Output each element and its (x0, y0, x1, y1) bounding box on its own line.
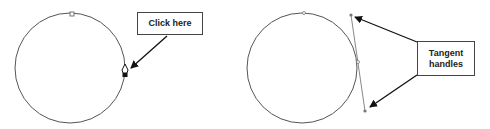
circle-path-left (15, 13, 125, 123)
callout-arrow-bottom-handle (370, 75, 417, 107)
anchor-point-top-left (70, 12, 74, 16)
pen-tool-cursor-icon (122, 64, 128, 77)
callout-click-here: Click here (137, 12, 203, 35)
anchor-point-right (357, 61, 360, 64)
handle-endpoint-top (349, 13, 352, 16)
callout-tangent-handles-line2: handles (429, 59, 463, 70)
callout-arrow-top-handle (355, 17, 417, 42)
circle-path-right (247, 13, 357, 123)
handle-endpoint-bottom (363, 109, 366, 112)
right-panel (247, 12, 417, 124)
callout-tangent-handles: Tangent handles (417, 41, 475, 76)
callout-arrow-left (131, 36, 167, 68)
anchor-point-top-right (303, 12, 306, 15)
callout-tangent-handles-line1: Tangent (429, 48, 463, 59)
callout-click-here-text: Click here (148, 18, 191, 29)
